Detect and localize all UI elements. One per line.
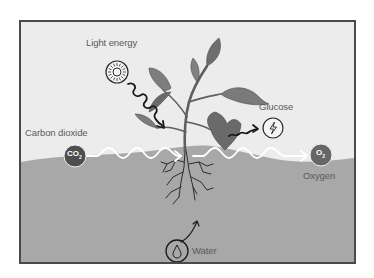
carbon-dioxide-label: Carbon dioxide	[25, 127, 88, 138]
light-energy-label: Light energy	[86, 37, 137, 48]
o2-text: O2	[316, 149, 325, 159]
lightning-bolt-icon	[263, 118, 283, 138]
photosynthesis-scene	[21, 22, 354, 262]
diagram-frame: Light energy Glucose Carbon dioxide Oxyg…	[19, 20, 356, 264]
sun-icon	[106, 61, 128, 83]
water-label: Water	[192, 245, 216, 256]
glucose-label: Glucose	[259, 101, 293, 112]
oxygen-label: Oxygen	[303, 170, 335, 181]
co2-text: CO2	[67, 150, 82, 160]
